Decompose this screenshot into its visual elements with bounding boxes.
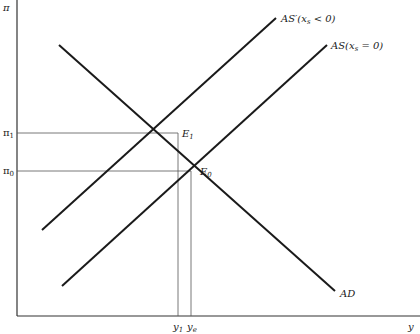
as-curve <box>62 45 327 286</box>
e1-label: E1 <box>181 128 194 141</box>
ad-label: AD <box>339 288 355 299</box>
ye-tick-label: ye <box>186 321 197 334</box>
y-axis-label: π <box>2 2 10 13</box>
x-axis-label: y <box>407 321 414 332</box>
ad-curve <box>59 45 335 291</box>
as-label: AS(xs = 0) <box>330 40 383 53</box>
as-prime-label: AS′(xs < 0) <box>280 13 336 26</box>
as-ad-diagram: π y AD AS′(xs < 0) AS(xs = 0) E1 E0 π1 π… <box>0 0 420 334</box>
y1-tick-label: y1 <box>172 321 183 334</box>
pi1-tick-label: π1 <box>3 127 14 140</box>
pi0-tick-label: π0 <box>3 165 14 178</box>
